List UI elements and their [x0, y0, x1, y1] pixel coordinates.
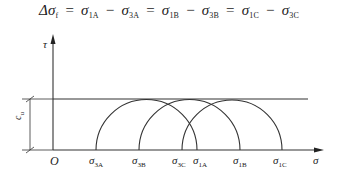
tick-label-sigma-1a: σ1A [193, 154, 207, 169]
tick-label-sigma-3b: σ3B [132, 154, 146, 169]
tick-label-sigma-1b: σ1B [233, 154, 247, 169]
tick-label-sigma-3a: σ3A [89, 154, 103, 169]
tick-label-sigma-3c: σ3C [172, 154, 186, 169]
tau-axis-label: τ [43, 38, 47, 50]
mohr-circle-b [139, 100, 240, 151]
cu-sub: u [18, 112, 26, 116]
tick-label-sigma-1c: σ1C [273, 154, 287, 169]
tau-arrow-icon [51, 34, 56, 44]
mohr-circle-diagram [0, 0, 338, 172]
origin-label: O [50, 154, 59, 169]
cu-sym: c [12, 116, 23, 120]
mohr-circle-a [96, 100, 197, 151]
cu-label: cu [12, 112, 26, 120]
sigma-arrow-icon [314, 148, 324, 153]
sigma-axis-label: σ [313, 154, 318, 166]
